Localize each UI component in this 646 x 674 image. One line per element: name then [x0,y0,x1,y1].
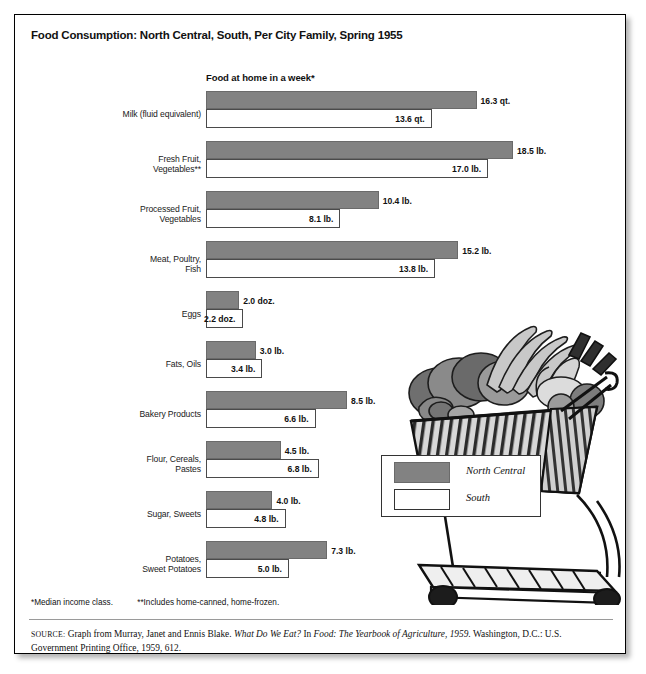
bar-north-central: 18.5 lb. [206,141,513,159]
bar-value-south: 13.6 qt. [395,110,425,129]
bar-value-south: 6.8 lb. [288,460,312,479]
bar-north-central: 8.5 lb. [206,391,347,409]
category-label-line: Milk (fluid equivalent) [123,109,201,120]
bar-value-south: 8.1 lb. [309,210,333,229]
bar-value-north-central: 4.5 lb. [285,442,309,460]
bar-value-south: 2.2 doz. [204,310,236,329]
source-italic-one: What Do We Eat? [234,629,301,639]
category-label: Milk (fluid equivalent) [123,109,201,120]
bar-north-central: 3.0 lb. [206,341,256,359]
bar-north-central: 16.3 qt. [206,91,477,109]
category-label-line: Eggs [182,309,201,320]
category-label: Potatoes,Sweet Potatoes [142,554,201,575]
category-label-line: Bakery Products [139,409,201,420]
bar-south: 6.6 lb. [206,409,316,428]
bar-north-central: 2.0 doz. [206,291,239,309]
legend: North Central South [381,455,541,517]
legend-label-south: South [466,492,490,503]
bar-value-north-central: 7.3 lb. [331,542,355,560]
bar-value-north-central: 15.2 lb. [462,242,491,260]
category-label-line: Potatoes, [142,554,201,565]
bar-value-north-central: 10.4 lb. [383,192,412,210]
bar-south: 4.8 lb. [206,509,286,528]
footnote-one: *Median income class. [31,598,113,607]
bar-pair: 18.5 lb.17.0 lb. [206,141,513,178]
legend-swatch-north-central [394,462,450,483]
category-label: Sugar, Sweets [147,509,201,520]
category-label-line: Pastes [147,464,201,475]
category-label-line: Flour, Cereals, [147,454,201,465]
chart-subtitle: Food at home in a week* [206,72,315,83]
source-citation: SOURCE: Graph from Murray, Janet and Enn… [31,628,609,655]
bar-south: 3.4 lb. [206,359,262,378]
bar-value-north-central: 2.0 doz. [243,292,275,310]
divider [29,619,613,620]
chart-frame: Food Consumption: North Central, South, … [14,14,626,654]
bar-south: 13.8 lb. [206,259,435,278]
bar-north-central: 10.4 lb. [206,191,379,209]
bar-north-central: 4.0 lb. [206,491,272,509]
category-label: Eggs [182,309,201,320]
legend-label-north-central: North Central [466,465,525,476]
bar-pair: 4.5 lb.6.8 lb. [206,441,319,478]
bar-pair: 15.2 lb.13.8 lb. [206,241,458,278]
chart-page: Food Consumption: North Central, South, … [0,0,646,674]
category-label: Meat, Poultry,Fish [150,254,201,275]
bar-value-south: 13.8 lb. [399,260,428,279]
category-label-line: Vegetables** [153,164,201,175]
category-label-line: Sweet Potatoes [142,564,201,575]
bar-north-central: 4.5 lb. [206,441,281,459]
bar-south: 5.0 lb. [206,559,289,578]
bar-pair: 4.0 lb.4.8 lb. [206,491,286,528]
footnotes: *Median income class. **Includes home-ca… [31,598,279,607]
source-italic-two: Food: The Yearbook of Agriculture, 1959. [314,629,471,639]
bar-south: 6.8 lb. [206,459,319,478]
bar-value-south: 6.6 lb. [284,410,308,429]
category-label-line: Fresh Fruit, [153,154,201,165]
bar-value-north-central: 4.0 lb. [276,492,300,510]
category-label-line: Processed Fruit, [140,204,201,215]
category-label-line: Fish [150,264,201,275]
bar-value-south: 17.0 lb. [452,160,481,179]
category-label: Flour, Cereals,Pastes [147,454,201,475]
bar-south: 2.2 doz. [206,309,243,328]
source-text-mid: In [301,629,314,639]
bar-value-north-central: 8.5 lb. [351,392,375,410]
category-label: Fresh Fruit,Vegetables** [153,154,201,175]
bar-value-north-central: 3.0 lb. [260,342,284,360]
category-label: Bakery Products [139,409,201,420]
category-label-line: Vegetables [140,214,201,225]
source-text-before: Graph from Murray, Janet and Ennis Blake… [65,629,234,639]
bar-value-south: 5.0 lb. [258,560,282,579]
category-label: Fats, Oils [166,359,201,370]
source-label: SOURCE: [31,630,65,639]
category-label-line: Fats, Oils [166,359,201,370]
category-label: Processed Fruit,Vegetables [140,204,201,225]
category-label-line: Sugar, Sweets [147,509,201,520]
bar-north-central: 15.2 lb. [206,241,458,259]
bar-south: 13.6 qt. [206,109,432,128]
bar-south: 8.1 lb. [206,209,340,228]
bar-pair: 10.4 lb.8.1 lb. [206,191,379,228]
page-title: Food Consumption: North Central, South, … [31,29,402,41]
bar-north-central: 7.3 lb. [206,541,327,559]
bar-value-north-central: 16.3 qt. [481,92,511,110]
bar-pair: 2.0 doz.2.2 doz. [206,291,243,328]
bar-pair: 3.0 lb.3.4 lb. [206,341,262,378]
bar-south: 17.0 lb. [206,159,488,178]
bar-pair: 7.3 lb.5.0 lb. [206,541,327,578]
bar-value-south: 3.4 lb. [231,360,255,379]
footnote-two: **Includes home-canned, home-frozen. [137,598,279,607]
legend-swatch-south [394,489,450,510]
bar-pair: 8.5 lb.6.6 lb. [206,391,347,428]
category-label-line: Meat, Poultry, [150,254,201,265]
bar-value-north-central: 18.5 lb. [517,142,546,160]
bar-pair: 16.3 qt.13.6 qt. [206,91,477,128]
bar-value-south: 4.8 lb. [254,510,278,529]
